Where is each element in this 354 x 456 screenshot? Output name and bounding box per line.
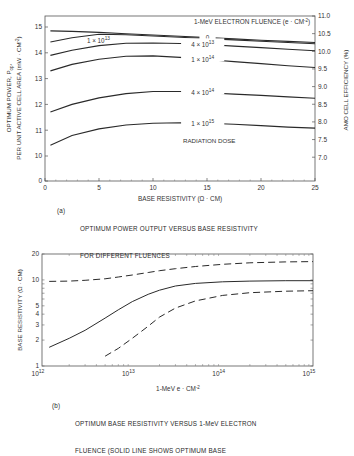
y2-tick-label: 7.0	[318, 154, 327, 161]
chart-a-x-label: BASE RESISTIVITY (Ω · CM)	[138, 195, 222, 203]
caption-a-tag: (a)	[57, 206, 65, 215]
chart-a-y-label-2: PER UNIT ACTIVE CELL AREA (mW · CM-2)	[15, 36, 23, 159]
chart-a-legend-title: 1-MeV ELECTRON FLUENCE (e · CM-2)	[194, 18, 310, 27]
x-tick-label: 5	[97, 184, 101, 191]
series-label: 4 × 1013	[191, 40, 214, 48]
x-tick-label: 1015	[303, 368, 316, 377]
y-tick-label: 2	[35, 336, 39, 343]
series-label: 1 × 1014	[191, 55, 214, 63]
caption-b: (b) OPTIMUM BASE RESISTIVITY VERSUS 1-Me…	[52, 401, 352, 451]
y2-tick-label: 8.5	[318, 101, 327, 108]
y2-tick-label: 8.0	[318, 118, 327, 125]
y-tick-label: 5	[35, 302, 39, 309]
x-tick-label: 0	[43, 184, 47, 191]
x-tick-label: 25	[311, 184, 319, 191]
chart-a-y-axis: 0101112131415	[35, 23, 48, 184]
y-tick-label: 10	[32, 276, 40, 283]
chart-a-y2-label: AMO CELL EFFICIENCY (%)	[342, 50, 349, 131]
y-tick-label: 15	[35, 23, 43, 30]
chart-b-y-label: BASE RESISTIVITY (Ω · CM)	[16, 269, 23, 351]
y-tick-label: 4	[35, 310, 39, 317]
caption-a-line: OPTIMUM POWER OUTPUT VERSUS BASE RESISTI…	[80, 224, 258, 233]
y2-tick-label: 10.5	[318, 30, 331, 37]
chart-a-x-axis: 0510152025	[43, 178, 319, 191]
series-label: 1 × 1015	[191, 119, 214, 127]
y-tick-label: 0	[38, 177, 42, 184]
series-label: 4 × 1014	[191, 88, 214, 96]
caption-a-line: FOR DIFFERENT FLUENCES	[80, 251, 258, 260]
chart-a: 0510152025 0101112131415 7.07.58.08.59.0…	[5, 12, 349, 203]
caption-b-line: OPTIMUM BASE RESISTIVITY VERSUS 1-MeV EL…	[75, 419, 257, 428]
chart-a-series-labels: 01 × 10134 × 10131 × 10144 × 10141 × 101…	[87, 32, 224, 127]
caption-b-line: FLUENCE (SOLID LINE SHOWS OPTIMUM BASE	[75, 446, 257, 455]
dashed-series-line	[105, 291, 313, 357]
x-tick-label: 1014	[212, 368, 225, 377]
series-line	[50, 92, 315, 113]
y2-tick-label: 9.5	[318, 65, 327, 72]
chart-a-annotation: RADIATION DOSE	[183, 137, 235, 144]
y2-tick-label: 10.0	[318, 48, 331, 55]
caption-a: (a) OPTIMUM POWER OUTPUT VERSUS BASE RES…	[57, 206, 347, 226]
x-tick-label: 15	[203, 184, 211, 191]
y-tick-label: 3	[35, 321, 39, 328]
x-tick-label: 1013	[122, 368, 135, 377]
y-tick-label: 12	[35, 101, 43, 108]
y2-tick-label: 9.0	[318, 83, 327, 90]
solid-series-line	[49, 281, 313, 348]
chart-a-y-label: OPTIMUM POWER, Pop,	[5, 63, 14, 132]
x-tick-label: 10	[149, 184, 157, 191]
x-tick-label: 20	[257, 184, 265, 191]
series-label: 1 × 1013	[87, 36, 110, 44]
y-tick-label: 20	[32, 250, 40, 257]
y-tick-label: 13	[35, 75, 43, 82]
y2-tick-label: 11.0	[318, 12, 331, 19]
y-tick-label: 1	[35, 362, 39, 369]
y-tick-label: 11	[35, 127, 42, 134]
y-tick-label: 10	[35, 152, 43, 159]
y2-tick-label: 7.5	[318, 136, 327, 143]
caption-b-tag: (b)	[52, 401, 60, 410]
y-tick-label: 14	[35, 49, 43, 56]
x-tick-label: 1012	[32, 368, 45, 377]
chart-b-x-label: 1-MeV e · CM-2	[156, 385, 200, 393]
